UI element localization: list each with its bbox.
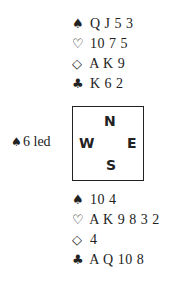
spade-icon: ♠ <box>72 190 86 210</box>
lead-text: 6 led <box>23 134 51 149</box>
north-diamonds: ◇ A K 9 <box>72 54 134 74</box>
club-icon: ♣ <box>72 250 86 270</box>
north-hand: ♠ Q J 5 3 ♡ 10 7 5 ◇ A K 9 ♣ K 6 2 <box>72 14 134 94</box>
north-hearts: ♡ 10 7 5 <box>72 34 134 54</box>
spade-icon: ♠ <box>72 14 86 34</box>
south-hand: ♠ 10 4 ♡ A K 9 8 3 2 ◇ 4 ♣ A Q 10 8 <box>72 190 160 270</box>
north-clubs-cards: K 6 2 <box>90 76 124 91</box>
north-clubs: ♣ K 6 2 <box>72 74 134 94</box>
south-hearts: ♡ A K 9 8 3 2 <box>72 210 160 230</box>
compass-north: N <box>104 113 116 129</box>
north-spades: ♠ Q J 5 3 <box>72 14 134 34</box>
south-clubs: ♣ A Q 10 8 <box>72 250 160 270</box>
diamond-icon: ◇ <box>72 54 86 74</box>
south-diamonds: ◇ 4 <box>72 230 160 250</box>
south-diamonds-cards: 4 <box>90 232 98 247</box>
compass-east: E <box>127 135 137 151</box>
opening-lead: ♠6 led <box>11 134 51 150</box>
south-spades: ♠ 10 4 <box>72 190 160 210</box>
heart-icon: ♡ <box>72 210 86 230</box>
south-spades-cards: 10 4 <box>90 192 117 207</box>
south-hearts-cards: A K 9 8 3 2 <box>89 212 159 227</box>
heart-icon: ♡ <box>72 34 86 54</box>
north-diamonds-cards: A K 9 <box>89 56 125 71</box>
diamond-icon: ◇ <box>72 230 86 250</box>
spade-icon: ♠ <box>11 135 23 149</box>
compass-box: N W E S <box>72 106 144 181</box>
club-icon: ♣ <box>72 74 86 94</box>
north-hearts-cards: 10 7 5 <box>90 36 128 51</box>
compass-south: S <box>106 157 116 173</box>
south-clubs-cards: A Q 10 8 <box>89 252 144 267</box>
compass-west: W <box>79 135 94 151</box>
north-spades-cards: Q J 5 3 <box>90 16 134 31</box>
